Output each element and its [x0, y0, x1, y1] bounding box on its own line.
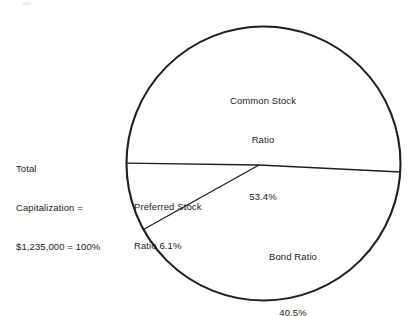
total-capitalization-line-3: $1,235,000 = 100% [16, 240, 128, 253]
total-capitalization-line-1: Total [16, 162, 128, 175]
slice-label-common-stock-line-1: Common Stock [193, 94, 333, 107]
slice-label-bond-ratio-name: Bond Ratio [223, 250, 363, 263]
total-capitalization-callout: Total Capitalization = $1,235,000 = 100% [16, 136, 128, 279]
pie-chart-figure: Total Capitalization = $1,235,000 = 100%… [0, 0, 415, 316]
slice-value-bond-ratio: 40.5% [223, 306, 363, 316]
total-capitalization-line-2: Capitalization = [16, 201, 128, 214]
slice-label-bond-ratio: Bond Ratio 40.5% [223, 224, 363, 316]
slice-label-preferred-stock-line-1: Preferred Stock [134, 200, 244, 213]
slice-label-common-stock-line-2: Ratio [193, 133, 333, 146]
